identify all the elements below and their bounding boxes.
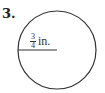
radius-fraction: 3 4 bbox=[30, 33, 36, 50]
radius-unit: in. bbox=[38, 34, 50, 49]
fraction-denominator: 4 bbox=[31, 42, 35, 50]
circle-diagram bbox=[0, 0, 105, 93]
fraction-numerator: 3 bbox=[31, 33, 35, 41]
radius-label: 3 4 in. bbox=[30, 33, 50, 50]
